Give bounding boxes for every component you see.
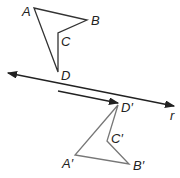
label-d: D [61,68,70,83]
label-c: C [61,34,71,49]
line-r [8,73,174,106]
label-a-prime: A′ [61,156,74,171]
label-b-prime: B′ [133,158,145,173]
label-d-prime: D′ [121,100,133,115]
label-b: B [91,13,100,28]
label-r: r [170,108,175,123]
translation-diagram: A B C D r D′ C′ A′ B′ [0,0,180,178]
label-a: A [21,4,31,19]
label-c-prime: C′ [111,131,123,146]
